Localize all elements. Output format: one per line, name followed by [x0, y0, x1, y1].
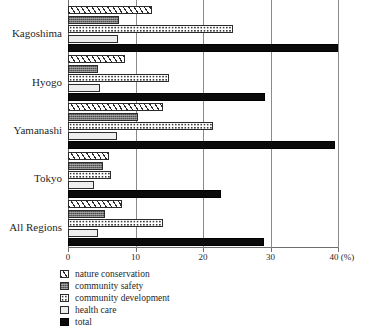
- bar-total: [68, 44, 338, 52]
- legend-swatch-total-icon: [60, 318, 69, 326]
- bar-group: [68, 200, 338, 248]
- bar-group: [68, 103, 338, 151]
- bar-development: [68, 171, 111, 179]
- bar-total: [68, 141, 335, 149]
- legend-swatch-safety-icon: [60, 282, 69, 290]
- x-axis: 010203040 (%): [68, 248, 338, 266]
- bar-safety: [68, 162, 103, 170]
- bar-safety: [68, 65, 98, 73]
- legend-item[interactable]: community safety: [60, 280, 290, 291]
- x-tick-label-40: 40 (%): [330, 252, 355, 263]
- bar-health: [68, 181, 94, 189]
- legend-item[interactable]: health care: [60, 304, 290, 315]
- bar-group: [68, 6, 338, 54]
- category-label-yamanashi: Yamanashi: [14, 124, 62, 136]
- legend-swatch-development-icon: [60, 294, 69, 302]
- bar-nature: [68, 55, 125, 63]
- legend-label: health care: [75, 305, 116, 315]
- plot-area: [68, 0, 338, 248]
- legend-item[interactable]: nature conservation: [60, 268, 290, 279]
- bar-nature: [68, 152, 109, 160]
- bar-group: [68, 152, 338, 200]
- legend-swatch-nature-icon: [60, 270, 69, 278]
- x-tick-label-10: 10: [131, 252, 140, 263]
- bar-nature: [68, 103, 163, 111]
- legend-label: total: [75, 317, 92, 327]
- category-label-all-regions: All Regions: [9, 221, 62, 233]
- legend-item[interactable]: community development: [60, 292, 290, 303]
- category-label-tokyo: Tokyo: [34, 172, 62, 184]
- bar-safety: [68, 16, 119, 24]
- bar-chart: Kagoshima Hyogo Yamanashi Tokyo All Regi…: [0, 0, 370, 334]
- bar-total: [68, 238, 264, 246]
- bar-health: [68, 229, 98, 237]
- legend-swatch-health-icon: [60, 306, 69, 314]
- bar-nature: [68, 6, 152, 14]
- bar-development: [68, 25, 233, 33]
- bar-health: [68, 84, 100, 92]
- bar-nature: [68, 200, 122, 208]
- legend-item[interactable]: total: [60, 316, 290, 327]
- legend: nature conservationcommunity safetycommu…: [60, 268, 290, 328]
- bar-group: [68, 55, 338, 103]
- category-axis: Kagoshima Hyogo Yamanashi Tokyo All Regi…: [0, 0, 68, 248]
- bar-development: [68, 74, 169, 82]
- bar-total: [68, 93, 265, 101]
- bar-development: [68, 122, 213, 130]
- legend-label: community safety: [75, 281, 143, 291]
- legend-label: nature conservation: [75, 269, 150, 279]
- category-label-hyogo: Hyogo: [32, 76, 62, 88]
- bar-total: [68, 190, 221, 198]
- gridline-40: [338, 0, 339, 248]
- bar-health: [68, 132, 117, 140]
- bar-safety: [68, 210, 105, 218]
- x-tick-label-20: 20: [199, 252, 208, 263]
- category-label-kagoshima: Kagoshima: [12, 27, 62, 39]
- x-tick-label-30: 30: [266, 252, 275, 263]
- legend-label: community development: [75, 293, 170, 303]
- x-tick-label-0: 0: [66, 252, 71, 263]
- bar-development: [68, 219, 163, 227]
- bar-safety: [68, 113, 138, 121]
- bar-health: [68, 35, 118, 43]
